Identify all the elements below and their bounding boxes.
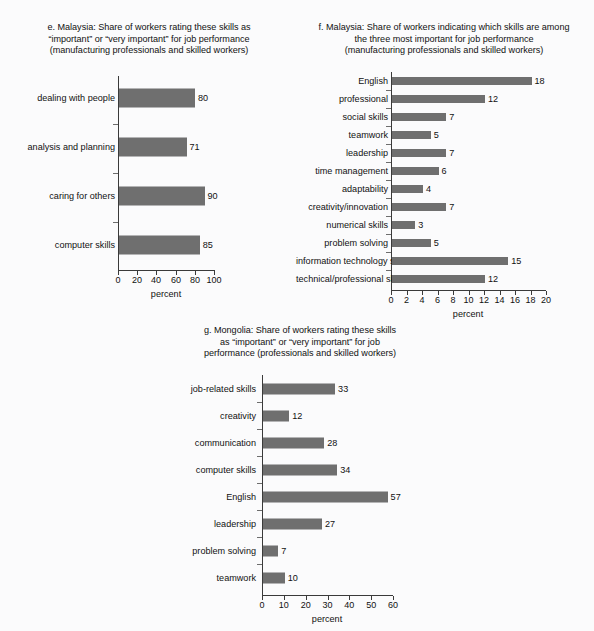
- chart-f-bar-1: [392, 77, 532, 85]
- chart-f-xtick-label-4: 4: [419, 295, 424, 305]
- chart-f-category-label-2: professional: [296, 94, 391, 104]
- chart-g-row-2: creativity 12: [140, 402, 460, 429]
- chart-f-plot: 0 2 4 6 8 10 12 14 16 18 20 percent: [296, 70, 592, 320]
- chart-g-row-5: English 57: [140, 483, 460, 510]
- chart-g-row-1: job-related skills 33: [140, 375, 460, 402]
- chart-g-title: g. Mongolia: Share of workers rating the…: [140, 325, 460, 360]
- chart-f-bar-wrap-1: 18: [392, 77, 545, 85]
- chart-g-bar-4: [263, 464, 337, 475]
- chart-f-category-label-8: creativity/innovation: [296, 202, 391, 212]
- chart-f-xtick-label-12: 12: [479, 295, 489, 305]
- chart-e-category-label-1: dealing with people: [7, 93, 118, 103]
- chart-e-category-label-4: computer skills: [7, 240, 118, 250]
- chart-f-xtick-label-2: 2: [404, 295, 409, 305]
- chart-e-title-line-2: “important” or “very important” for job …: [8, 34, 290, 46]
- chart-f-row-4: teamwork 5: [296, 126, 592, 144]
- chart-g-xtick-label-10: 10: [279, 600, 289, 610]
- chart-e-bar-3: [119, 186, 205, 205]
- chart-f-bar-value-6: 6: [442, 166, 447, 176]
- chart-f-row-1: English 18: [296, 72, 592, 90]
- chart-g-bar-value-1: 33: [338, 384, 348, 394]
- chart-f-xtick-label-18: 18: [525, 295, 535, 305]
- chart-f-bar-wrap-7: 4: [392, 185, 431, 193]
- chart-g-bar-wrap-3: 28: [263, 437, 337, 448]
- chart-e-x-axis-title: percent: [151, 289, 181, 299]
- chart-e-bar-value-4: 85: [203, 240, 213, 250]
- chart-e-bar-wrap-3: 90: [119, 186, 218, 205]
- chart-g-bar-wrap-6: 27: [263, 518, 335, 529]
- chart-g-xtick-label-60: 60: [388, 600, 398, 610]
- chart-f-row-6: time management 6: [296, 162, 592, 180]
- chart-f-bar-wrap-8: 7: [392, 203, 454, 211]
- chart-f-row-8: creativity/innovation 7: [296, 198, 592, 216]
- chart-f-title-line-3: (manufacturing professionals and skilled…: [296, 45, 592, 57]
- chart-f-bar-value-8: 7: [449, 202, 454, 212]
- chart-f-title-line-1: f. Malaysia: Share of workers indicating…: [296, 22, 592, 34]
- chart-g-category-label-1: job-related skills: [138, 384, 259, 394]
- chart-g-x-axis-title: percent: [312, 614, 342, 624]
- chart-g-row-8: teamwork 10: [140, 564, 460, 591]
- chart-e-bar-value-3: 90: [208, 191, 218, 201]
- chart-g-bar-8: [263, 572, 285, 583]
- chart-g-bar-value-5: 57: [391, 492, 401, 502]
- chart-f-bar-value-4: 5: [434, 130, 439, 140]
- chart-g-category-label-3: communication: [138, 438, 259, 448]
- chart-f-row-2: professional 12: [296, 90, 592, 108]
- chart-f-bar-11: [392, 257, 508, 265]
- chart-f-bar-6: [392, 167, 439, 175]
- chart-f-bar-12: [392, 275, 485, 283]
- chart-g-category-label-8: teamwork: [138, 573, 259, 583]
- figure-page: e. Malaysia: Share of workers rating the…: [0, 0, 594, 631]
- chart-e-bar-4: [119, 235, 200, 254]
- chart-e-xtick-label-40: 40: [151, 275, 161, 285]
- chart-f-xtick-label-8: 8: [450, 295, 455, 305]
- chart-g-title-line-2: as “important” or “very important” for j…: [140, 337, 460, 349]
- chart-e-row-1: dealing with people 80: [8, 84, 290, 111]
- chart-e-bar-wrap-2: 71: [119, 137, 200, 156]
- chart-e-x-axis: [118, 270, 215, 271]
- chart-e-ytick-3: [113, 222, 118, 223]
- chart-f-xtick-label-20: 20: [541, 295, 551, 305]
- chart-e-row-2: analysis and planning 71: [8, 133, 290, 160]
- chart-f-bar-5: [392, 149, 446, 157]
- chart-g-row-7: problem solving 7: [140, 537, 460, 564]
- chart-f-category-label-4: teamwork: [296, 130, 391, 140]
- chart-g-xtick-label-0: 0: [259, 600, 264, 610]
- chart-f-category-label-3: social skills: [296, 112, 391, 122]
- chart-g-title-line-1: g. Mongolia: Share of workers rating the…: [140, 325, 460, 337]
- chart-g-category-label-5: English: [138, 492, 259, 502]
- chart-f-bar-value-9: 3: [418, 220, 423, 230]
- chart-e-bar-2: [119, 137, 187, 156]
- chart-g-bar-5: [263, 491, 388, 502]
- chart-g-row-4: computer skills 34: [140, 456, 460, 483]
- chart-e-plot: 0 20 40 60 80 100 percent dealing with p…: [8, 70, 290, 310]
- chart-g-bar-value-6: 27: [325, 519, 335, 529]
- chart-f-bar-value-11: 15: [511, 256, 521, 266]
- chart-f-bar-wrap-2: 12: [392, 95, 498, 103]
- chart-g-xtick-label-20: 20: [301, 600, 311, 610]
- chart-g-bar-wrap-7: 7: [263, 545, 286, 556]
- chart-f-bar-10: [392, 239, 431, 247]
- chart-f-row-7: adaptability 4: [296, 180, 592, 198]
- chart-g-bar-wrap-4: 34: [263, 464, 350, 475]
- chart-f-bar-value-12: 12: [488, 274, 498, 284]
- chart-f-xtick-label-16: 16: [510, 295, 520, 305]
- chart-g-category-label-7: problem solving: [138, 546, 259, 556]
- chart-e-figure: e. Malaysia: Share of workers rating the…: [8, 22, 290, 312]
- chart-g-bar-wrap-2: 12: [263, 410, 302, 421]
- chart-e-bar-wrap-4: 85: [119, 235, 213, 254]
- chart-g-bar-value-3: 28: [327, 438, 337, 448]
- chart-f-category-label-9: numerical skills: [296, 220, 391, 230]
- chart-g-bar-wrap-5: 57: [263, 491, 401, 502]
- chart-g-category-label-4: computer skills: [138, 465, 259, 475]
- chart-e-category-label-2: analysis and planning: [7, 142, 118, 152]
- chart-e-ytick-1: [113, 124, 118, 125]
- chart-f-title-line-2: the three most important for job perform…: [296, 34, 592, 46]
- chart-e-xtick-label-0: 0: [115, 275, 120, 285]
- chart-f-bar-wrap-11: 15: [392, 257, 521, 265]
- chart-f-bar-value-7: 4: [426, 184, 431, 194]
- chart-f-category-label-6: time management: [296, 166, 391, 176]
- chart-f-row-5: leadership 7: [296, 144, 592, 162]
- chart-e-title-line-1: e. Malaysia: Share of workers rating the…: [8, 22, 290, 34]
- chart-f-category-label-10: problem solving: [296, 238, 391, 248]
